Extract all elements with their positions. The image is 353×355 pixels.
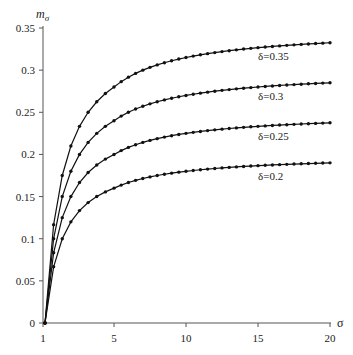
data-marker <box>134 72 137 75</box>
data-marker <box>278 163 281 166</box>
data-marker <box>235 165 238 168</box>
y-tick-label: 0.25 <box>16 106 36 118</box>
data-marker <box>228 88 231 91</box>
data-marker <box>177 57 180 60</box>
data-marker <box>307 42 310 45</box>
data-marker <box>235 48 238 51</box>
data-marker <box>213 90 216 93</box>
data-marker <box>235 87 238 90</box>
data-marker <box>134 107 137 110</box>
data-marker <box>264 45 267 48</box>
data-marker <box>228 166 231 169</box>
data-marker <box>69 220 72 223</box>
data-marker <box>112 186 115 189</box>
data-marker <box>278 123 281 126</box>
data-marker <box>314 82 317 85</box>
y-tick-label: 0.05 <box>16 275 36 287</box>
data-marker <box>192 93 195 96</box>
data-marker <box>242 87 245 90</box>
series-label: δ=0.35 <box>258 50 289 62</box>
data-marker <box>307 162 310 165</box>
data-marker <box>134 179 137 182</box>
data-marker <box>95 100 98 103</box>
data-marker <box>271 45 274 48</box>
data-marker <box>249 86 252 89</box>
data-marker <box>184 56 187 59</box>
data-marker <box>206 90 209 93</box>
data-marker <box>61 237 64 240</box>
data-marker <box>163 98 166 101</box>
data-marker <box>292 162 295 165</box>
data-marker <box>170 134 173 137</box>
series-label: δ=0.2 <box>258 170 283 182</box>
data-marker <box>170 97 173 100</box>
data-marker <box>112 85 115 88</box>
data-marker <box>300 82 303 85</box>
chart: 00.050.10.150.20.250.30.3515101520mσσ δ=… <box>0 0 353 355</box>
data-marker <box>163 135 166 138</box>
data-marker <box>127 111 130 114</box>
data-marker <box>249 164 252 167</box>
data-marker <box>127 75 130 78</box>
data-marker <box>220 50 223 53</box>
data-marker <box>220 89 223 92</box>
data-marker <box>264 164 267 167</box>
data-marker <box>141 105 144 108</box>
data-marker <box>242 47 245 50</box>
data-marker <box>264 124 267 127</box>
data-marker <box>278 44 281 47</box>
data-marker <box>256 125 259 128</box>
data-marker <box>300 122 303 125</box>
data-marker <box>141 68 144 71</box>
data-marker <box>285 123 288 126</box>
data-marker <box>112 153 115 156</box>
x-tick-label: 10 <box>181 332 193 344</box>
y-tick-label: 0.2 <box>21 148 35 160</box>
data-marker <box>86 141 89 144</box>
data-marker <box>78 181 81 184</box>
data-marker <box>256 164 259 167</box>
data-marker <box>43 321 46 324</box>
data-marker <box>249 125 252 128</box>
data-marker <box>95 132 98 135</box>
y-tick-label: 0.3 <box>21 64 35 76</box>
data-marker <box>95 195 98 198</box>
series-label: δ=0.3 <box>258 90 284 102</box>
x-tick-label: 20 <box>325 332 337 344</box>
data-marker <box>95 163 98 166</box>
data-marker <box>120 80 123 83</box>
data-marker <box>156 137 159 140</box>
data-marker <box>307 82 310 85</box>
data-marker <box>104 92 107 95</box>
data-marker <box>213 167 216 170</box>
data-marker <box>184 94 187 97</box>
data-marker <box>134 143 137 146</box>
y-tick-label: 0.35 <box>16 22 36 34</box>
data-marker <box>86 201 89 204</box>
data-marker <box>163 173 166 176</box>
data-marker <box>249 47 252 50</box>
data-marker <box>156 174 159 177</box>
y-tick-label: 0.15 <box>16 191 36 203</box>
data-marker <box>192 54 195 57</box>
data-marker <box>292 83 295 86</box>
data-marker <box>328 161 331 164</box>
data-marker <box>314 162 317 165</box>
data-marker <box>321 41 324 44</box>
data-marker <box>199 168 202 171</box>
data-marker <box>206 167 209 170</box>
data-marker <box>86 111 89 114</box>
data-marker <box>292 123 295 126</box>
data-marker <box>192 169 195 172</box>
data-marker <box>148 175 151 178</box>
data-marker <box>184 170 187 173</box>
data-marker <box>328 121 331 124</box>
data-marker <box>69 144 72 147</box>
data-marker <box>78 153 81 156</box>
data-marker <box>235 126 238 129</box>
data-marker <box>321 121 324 124</box>
data-marker <box>120 149 123 152</box>
data-marker <box>104 190 107 193</box>
data-marker <box>321 161 324 164</box>
data-marker <box>156 63 159 66</box>
